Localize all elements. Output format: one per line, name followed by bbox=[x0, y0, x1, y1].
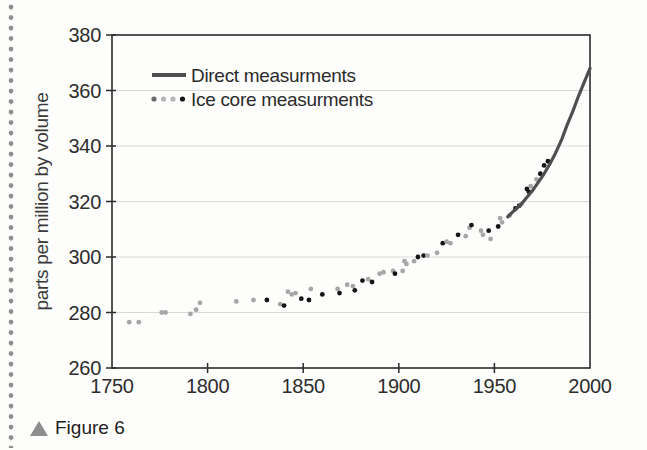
ice-core-point bbox=[335, 287, 340, 292]
ice-core-point bbox=[352, 288, 357, 293]
legend-dot-swatch bbox=[161, 96, 166, 101]
ice-core-point bbox=[251, 298, 256, 303]
x-tick-label: 1900 bbox=[377, 375, 420, 397]
ice-core-point bbox=[542, 163, 547, 168]
y-tick-label: 320 bbox=[69, 191, 102, 213]
ice-core-point bbox=[127, 320, 132, 325]
y-tick-label: 360 bbox=[69, 80, 102, 102]
x-tick-label: 2000 bbox=[568, 375, 611, 397]
ice-core-point bbox=[463, 234, 468, 239]
y-axis-label: parts per million by volume bbox=[31, 93, 52, 311]
ice-core-point bbox=[337, 291, 342, 296]
ice-core-point bbox=[448, 241, 453, 246]
ice-core-point bbox=[412, 259, 417, 264]
ice-core-point bbox=[488, 237, 493, 242]
dotted-border-left bbox=[7, 2, 15, 448]
page: 2602803003203403603801750180018501900195… bbox=[0, 0, 647, 450]
ice-core-point bbox=[299, 296, 304, 301]
figure-caption-text: Figure 6 bbox=[55, 417, 125, 439]
ice-core-point bbox=[500, 220, 505, 225]
ice-core-point bbox=[456, 232, 461, 237]
co2-concentration-chart: 2602803003203403603801750180018501900195… bbox=[0, 0, 647, 412]
ice-core-point bbox=[163, 310, 168, 315]
legend-dot-swatch bbox=[151, 96, 156, 101]
ice-core-point bbox=[308, 287, 313, 292]
ice-core-point bbox=[370, 280, 375, 285]
ice-core-point bbox=[345, 282, 350, 287]
ice-core-point bbox=[293, 291, 298, 296]
ice-core-point bbox=[282, 303, 287, 308]
y-tick-label: 340 bbox=[69, 135, 102, 157]
x-tick-label: 1750 bbox=[90, 375, 133, 397]
ice-core-point bbox=[264, 298, 269, 303]
ice-core-point bbox=[469, 223, 474, 228]
ice-core-point bbox=[194, 307, 199, 312]
ice-core-point bbox=[400, 268, 405, 273]
x-tick-label: 1800 bbox=[186, 375, 229, 397]
ice-core-point bbox=[360, 278, 365, 283]
ice-core-point bbox=[351, 284, 356, 289]
legend-label-direct-measurements: Direct measurments bbox=[191, 65, 356, 86]
ice-core-point bbox=[234, 299, 239, 304]
legend-label-ice-core-measurements: Ice core measurments bbox=[191, 89, 373, 110]
ice-core-point bbox=[366, 277, 371, 282]
figure-caption: Figure 6 bbox=[30, 417, 125, 439]
ice-core-point bbox=[286, 289, 291, 294]
ice-core-point bbox=[481, 232, 486, 237]
ice-core-point bbox=[393, 271, 398, 276]
ice-core-point bbox=[416, 255, 421, 260]
ice-core-point bbox=[198, 300, 203, 305]
x-tick-label: 1850 bbox=[282, 375, 325, 397]
ice-core-point bbox=[435, 250, 440, 255]
ice-core-point bbox=[320, 292, 325, 297]
ice-core-point bbox=[498, 216, 503, 221]
x-tick-label: 1950 bbox=[473, 375, 516, 397]
legend-dot-swatch bbox=[180, 96, 185, 101]
legend-dot-swatch bbox=[170, 96, 175, 101]
ice-core-point bbox=[136, 320, 141, 325]
ice-core-point bbox=[381, 270, 386, 275]
ice-core-point bbox=[496, 224, 501, 229]
y-tick-label: 280 bbox=[69, 302, 102, 324]
triangle-up-icon bbox=[30, 421, 48, 436]
ice-core-point bbox=[425, 253, 430, 258]
ice-core-point bbox=[486, 228, 491, 233]
y-tick-label: 300 bbox=[69, 246, 102, 268]
ice-core-point bbox=[404, 262, 409, 267]
ice-core-point bbox=[307, 298, 312, 303]
ice-core-point bbox=[479, 228, 484, 233]
y-tick-label: 380 bbox=[69, 24, 102, 46]
ice-core-point bbox=[188, 311, 193, 316]
